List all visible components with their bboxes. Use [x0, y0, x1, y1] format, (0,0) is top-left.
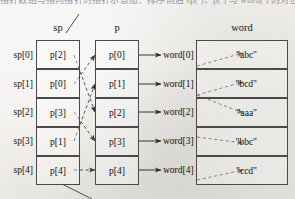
sp-index-label-4: sp[4]: [0, 165, 33, 175]
p-cell-2[interactable]: p[2]: [95, 98, 139, 127]
sp-cell-3[interactable]: p[1]: [36, 127, 80, 156]
word-cell-0[interactable]: "abc": [196, 40, 288, 69]
p-cell-3[interactable]: p[3]: [95, 127, 139, 156]
column-title-p: p: [95, 22, 139, 33]
column-title-sp: sp: [36, 22, 80, 33]
p-cell-0[interactable]: p[0]: [95, 40, 139, 69]
word-cell-2[interactable]: "aaa": [196, 98, 288, 127]
sp-index-label-3: sp[3]: [0, 136, 33, 146]
sp-cell-2[interactable]: p[3]: [36, 98, 80, 127]
p-cell-1[interactable]: p[1]: [95, 69, 139, 98]
word-target-label-4: word[4]: [163, 165, 194, 175]
sp-cell-4[interactable]: p[4]: [36, 156, 80, 185]
p-cell-4[interactable]: p[4]: [95, 156, 139, 185]
sp-index-label-1: sp[1]: [0, 79, 33, 89]
word-cell-4[interactable]: "ccd": [196, 156, 288, 185]
word-target-label-3: word[3]: [163, 136, 194, 146]
word-target-label-2: word[2]: [163, 107, 194, 117]
sp-index-label-2: sp[2]: [0, 107, 33, 117]
sp-cell-0[interactable]: p[2]: [36, 40, 80, 69]
word-cell-3[interactable]: "bbc": [196, 127, 288, 156]
p-to-wordlabel-arrows: [139, 55, 161, 170]
sp-cell-1[interactable]: p[0]: [36, 69, 80, 98]
word-cell-1[interactable]: "bcd": [196, 69, 288, 98]
column-title-word: word: [196, 22, 288, 33]
sp-index-label-0: sp[0]: [0, 50, 33, 60]
sp-bottom-leader-line: [62, 184, 92, 199]
pointer-array-diagram: 指针数组与指向指针的指针示意图：排序前后 sp[ ]、p[ ] 与 word[ …: [0, 0, 295, 199]
word-target-label-0: word[0]: [163, 50, 194, 60]
word-target-label-1: word[1]: [163, 79, 194, 89]
